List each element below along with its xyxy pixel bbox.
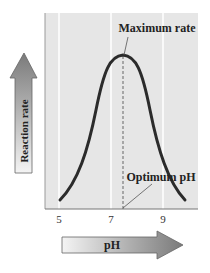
tick-label-7: 7 xyxy=(108,213,114,225)
tick-label-5: 5 xyxy=(56,213,62,225)
max-rate-label: Maximum rate xyxy=(119,21,197,35)
ph-label: pH xyxy=(104,238,121,252)
tick-label-9: 9 xyxy=(160,213,166,225)
reaction-rate-arrow: Reaction rate xyxy=(10,53,37,173)
ph-arrow: pH xyxy=(62,231,183,259)
right-arrow-icon xyxy=(62,231,183,259)
reaction-rate-label: Reaction rate xyxy=(18,99,30,162)
plot-area: Maximum rate Optimum pH xyxy=(45,13,198,209)
x-ticks: 5 7 9 xyxy=(56,213,166,225)
optimum-ph-label: Optimum pH xyxy=(126,170,196,184)
ph-rate-diagram: Maximum rate Optimum pH 5 7 9 Reaction r… xyxy=(0,0,210,273)
